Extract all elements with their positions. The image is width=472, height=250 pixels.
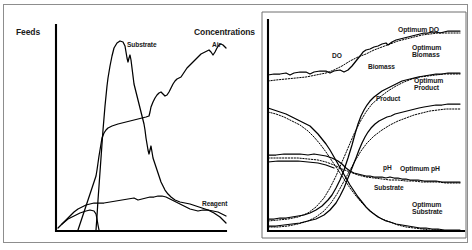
series-label-optimum-biomass: Optimum Biomass: [412, 44, 441, 59]
series-label-biomass: Biomass: [368, 63, 395, 70]
curve-biomass: [268, 73, 460, 219]
figure-screenshot: Feeds Substrate Air Reagent Concentratio…: [0, 0, 472, 250]
curve-secondary-trace: [268, 161, 334, 168]
series-label-product: Product: [376, 95, 400, 102]
series-label-ph: pH: [383, 164, 392, 171]
panel-concentrations: Concentrations DO Optimu: [236, 0, 472, 250]
feeds-axes: [56, 25, 226, 231]
series-label-optimum-product: Optimum Product: [414, 77, 443, 92]
series-label-optimum-ph: Optimum pH: [400, 165, 440, 172]
series-label-air-feed: Air: [212, 41, 221, 48]
series-label-optimum-substrate: Optimum Substrate: [412, 201, 442, 216]
series-label-reagent-feed: Reagent: [202, 200, 227, 207]
series-label-substrate-feed: Substrate: [127, 41, 157, 48]
series-label-substrate-conc: Substrate: [374, 184, 404, 191]
feeds-plot: [0, 0, 236, 250]
series-label-do: DO: [332, 52, 342, 59]
panel-feeds: Feeds Substrate Air Reagent: [0, 0, 236, 250]
series-label-optimum-do: Optimum DO: [398, 26, 439, 33]
